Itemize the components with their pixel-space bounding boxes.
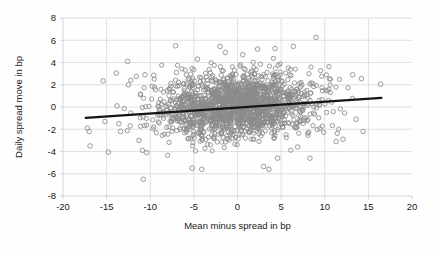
scatter-point <box>184 73 188 77</box>
y-tick-label: -4 <box>48 146 56 157</box>
scatter-point <box>257 139 261 143</box>
scatter-point <box>161 90 165 94</box>
scatter-point-outlier <box>275 156 280 161</box>
scatter-point <box>218 65 222 69</box>
scatter-point <box>346 86 350 90</box>
scatter-point-outlier <box>314 35 319 40</box>
scatter-point-outlier <box>115 104 120 109</box>
scatter-point <box>284 133 288 137</box>
scatter-point-outlier <box>114 71 119 76</box>
scatter-point <box>138 116 142 120</box>
scatter-point <box>151 118 155 122</box>
scatter-point-outlier <box>341 137 346 142</box>
scatter-point <box>256 74 260 78</box>
scatter-point-outlier <box>88 144 93 149</box>
scatter-point-outlier <box>359 76 364 81</box>
scatter-point <box>167 93 171 97</box>
scatter-point-outlier <box>350 72 355 77</box>
scatter-point <box>278 70 282 74</box>
scatter-point <box>141 96 145 100</box>
scatter-point-outlier <box>361 129 366 134</box>
scatter-point <box>293 67 297 71</box>
scatter-point <box>242 66 246 70</box>
scatter-point-outlier <box>143 72 148 77</box>
scatter-point <box>330 123 334 127</box>
scatter-point <box>334 85 338 89</box>
scatter-point <box>230 65 234 69</box>
y-axis-title: Daily spread move in bp <box>13 56 24 158</box>
scatter-point-outlier <box>174 70 179 75</box>
scatter-point-outlier <box>255 47 260 52</box>
scatter-point <box>286 77 290 81</box>
y-axis-tick-labels: -8-6-4-202468 <box>48 12 56 201</box>
scatter-point-outlier <box>240 52 245 57</box>
scatter-point <box>138 124 142 128</box>
scatter-point-outlier <box>118 129 123 134</box>
x-tick-label: 10 <box>319 201 330 212</box>
scatter-point <box>297 131 301 135</box>
y-tick-label: 8 <box>51 12 56 23</box>
scatter-point <box>321 130 325 134</box>
scatter-point <box>307 72 311 76</box>
scatter-point <box>212 63 216 67</box>
scatter-point <box>160 63 164 67</box>
x-tick-label: -20 <box>56 201 70 212</box>
scatter-point-outlier <box>267 167 272 172</box>
scatter-point <box>335 131 339 135</box>
scatter-point-outlier <box>173 44 178 49</box>
y-tick-label: 6 <box>51 35 56 46</box>
scatter-point-outlier <box>125 59 130 64</box>
scatter-point <box>338 107 342 111</box>
y-tick-label: 0 <box>51 101 56 112</box>
scatter-point-outlier <box>218 44 223 49</box>
scatter-point <box>342 111 346 115</box>
x-tick-label: 15 <box>363 201 374 212</box>
scatter-point-outlier <box>101 79 106 84</box>
x-axis-title: Mean minus spread in bp <box>184 220 291 231</box>
x-axis-tick-labels: -20-15-10-505101520 <box>56 201 417 212</box>
scatter-point-outlier <box>134 74 139 79</box>
scatter-point-outlier <box>223 50 228 55</box>
x-tick-label: -15 <box>100 201 114 212</box>
scatter-point <box>311 123 315 127</box>
scatter-point-outlier <box>140 148 145 153</box>
scatter-point-outlier <box>195 57 200 62</box>
y-tick-label: -2 <box>48 124 56 135</box>
scatter-point-outlier <box>334 139 339 144</box>
x-tick-label: -10 <box>143 201 157 212</box>
scatter-point <box>318 68 322 72</box>
scatter-point <box>320 74 324 78</box>
scatter-point-outlier <box>273 46 278 51</box>
scatter-point <box>165 153 169 157</box>
scatter-point <box>331 109 335 113</box>
scatter-point <box>173 78 177 82</box>
scatter-point <box>167 140 171 144</box>
scatter-point-outlier <box>261 164 266 169</box>
scatter-point-outlier <box>295 145 300 150</box>
scatter-point-outlier <box>144 150 149 155</box>
scatter-point-outlier <box>117 121 122 126</box>
scatter-point <box>271 56 275 60</box>
x-tick-label: 5 <box>278 201 283 212</box>
chart-canvas: -20-15-10-505101520 -8-6-4-202468 Mean m… <box>0 0 436 256</box>
scatter-point-outlier <box>137 138 142 143</box>
scatter-point-outlier <box>308 156 313 161</box>
x-tick-label: -5 <box>190 201 198 212</box>
scatter-point <box>267 64 271 68</box>
scatter-point <box>327 64 331 68</box>
scatter-plot-figure: -20-15-10-505101520 -8-6-4-202468 Mean m… <box>0 0 436 256</box>
scatter-point <box>205 142 209 146</box>
x-tick-label: 20 <box>407 201 418 212</box>
scatter-point <box>175 63 179 67</box>
scatter-point-outlier <box>354 117 359 122</box>
scatter-point <box>320 85 324 89</box>
scatter-point <box>243 136 247 140</box>
scatter-point <box>203 146 207 150</box>
scatter-point <box>284 71 288 75</box>
scatter-point-outlier <box>199 167 204 172</box>
y-tick-label: 2 <box>51 79 56 90</box>
x-tick-label: 0 <box>235 201 240 212</box>
scatter-point <box>142 86 146 90</box>
y-tick-label: -8 <box>48 190 56 201</box>
scatter-point <box>210 149 214 153</box>
